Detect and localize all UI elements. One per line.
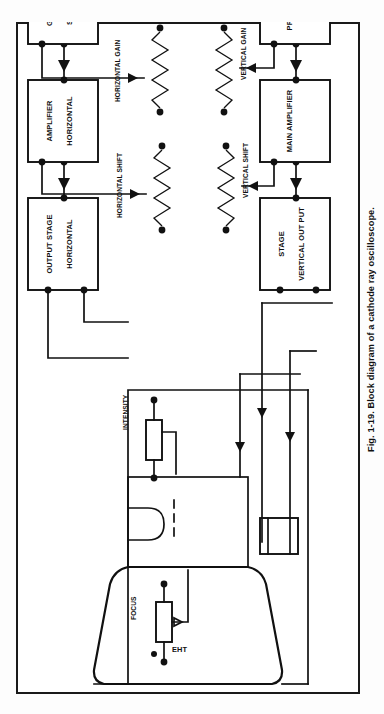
- vertical-output-stage-label-1: VERTICAL OUT PUT: [297, 207, 306, 281]
- block-horizontal-amplifier[interactable]: HORIZONTAL AMPLIFIER: [28, 77, 98, 166]
- horizontal-output-stage-label-2: OUTPUT STAGE: [45, 214, 54, 273]
- intensity-control[interactable]: INTENSITY: [122, 394, 176, 481]
- block-vertical-output-stage[interactable]: VERTICAL OUT PUT STAGE: [260, 195, 330, 294]
- figure-page: EHT: [0, 0, 384, 714]
- link-horiz-amp-to-horiz-output: [58, 159, 70, 198]
- block-preamplifier[interactable]: PREAMPLIFIER: [260, 22, 330, 47]
- oscilloscope-block-diagram: EHT: [16, 22, 360, 694]
- figure-caption: Fig. 1-19. Block diagram of a cathode ra…: [366, 192, 376, 452]
- crt-neck-assembly: [128, 477, 298, 567]
- horizontal-amplifier-label-1: HORIZONTAL: [65, 96, 74, 146]
- saw-tooth-generator-label-1: SAW TOOTH: [65, 22, 74, 25]
- diagram-canvas: EHT: [16, 22, 360, 694]
- vertical-shift-label: VERTICAL SHIFT: [242, 143, 249, 198]
- eht-label: EHT: [172, 645, 188, 654]
- link-main-to-vertical-output: [290, 159, 302, 198]
- vertical-output-stage-label-2: STAGE: [277, 231, 286, 257]
- block-main-amplifier[interactable]: MAIN AMPLIFIER: [260, 77, 330, 166]
- focus-label: FOCUS: [130, 596, 137, 620]
- saw-tooth-generator-label-2: GENERATOR: [45, 22, 54, 26]
- link-sawtooth-to-horiz-amp: [58, 41, 70, 80]
- horizontal-amplifier-label-2: AMPLIFIER: [45, 100, 54, 142]
- preamplifier-label: PREAMPLIFIER: [285, 22, 294, 30]
- horizontal-shift-label: HORIZONTAL SHIFT: [116, 153, 123, 218]
- horizontal-output-stage-label-1: HORIZONTAL: [65, 219, 74, 269]
- main-amplifier-label: MAIN AMPLIFIER: [285, 89, 294, 152]
- horizontal-gain-label: HORIZONTAL GAIN: [114, 39, 121, 102]
- deflection-feed-lines: [235, 303, 332, 542]
- block-horizontal-output-stage[interactable]: HORIZONTAL OUTPUT STAGE: [28, 195, 128, 358]
- vertical-gain-label: VERTICAL GAIN: [240, 27, 247, 80]
- link-preamp-to-main: [290, 41, 302, 80]
- block-saw-tooth-generator[interactable]: SAW TOOTH GENERATOR: [28, 22, 98, 47]
